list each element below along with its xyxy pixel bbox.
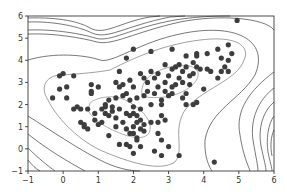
data-point	[64, 95, 69, 100]
data-point	[226, 42, 231, 47]
density-contours	[28, 16, 274, 171]
data-point	[103, 102, 108, 107]
data-point	[106, 98, 111, 103]
data-point	[219, 56, 224, 61]
data-point	[131, 104, 136, 109]
data-point	[163, 62, 168, 67]
data-point	[57, 87, 62, 92]
plot-frame	[28, 16, 274, 171]
data-point	[113, 80, 118, 85]
data-point	[141, 75, 146, 80]
y-tick-label: 3	[18, 78, 23, 87]
data-point	[89, 91, 94, 96]
scatter-contour-chart: −10123456 −10123456	[0, 0, 287, 192]
data-point	[184, 102, 189, 107]
data-point	[212, 160, 217, 165]
data-point	[113, 124, 118, 129]
data-point	[219, 69, 224, 74]
data-point	[113, 95, 118, 100]
data-point	[138, 144, 143, 149]
data-point	[152, 91, 157, 96]
data-point	[163, 118, 168, 123]
data-point	[96, 84, 101, 89]
data-point	[124, 91, 129, 96]
data-point	[138, 118, 143, 123]
data-point	[106, 133, 111, 138]
data-point	[152, 149, 157, 154]
y-tick-label: −1	[11, 167, 23, 176]
x-tick-label: −1	[22, 176, 34, 185]
data-point	[124, 126, 129, 131]
data-point	[85, 106, 90, 111]
data-point	[148, 102, 153, 107]
data-point	[145, 80, 150, 85]
y-tick-label: 4	[18, 56, 23, 65]
data-point	[194, 53, 199, 58]
data-point	[187, 82, 192, 87]
data-point	[85, 126, 90, 131]
x-tick-label: 2	[131, 176, 136, 185]
data-point	[177, 75, 182, 80]
data-point	[226, 69, 231, 74]
data-point	[92, 111, 97, 116]
x-tick-label: 0	[61, 176, 66, 185]
data-point	[89, 82, 94, 87]
data-point	[134, 137, 139, 142]
data-point	[138, 106, 143, 111]
data-point	[152, 75, 157, 80]
data-point	[226, 58, 231, 63]
data-point	[148, 120, 153, 125]
y-axis: −10123456	[11, 12, 28, 176]
x-axis: −10123456	[22, 171, 276, 185]
data-point	[117, 142, 122, 147]
data-point	[191, 60, 196, 65]
y-tick-label: 5	[18, 34, 23, 43]
y-tick-label: 6	[18, 12, 23, 21]
data-point	[198, 67, 203, 72]
y-tick-label: 2	[18, 101, 23, 110]
data-point	[131, 84, 136, 89]
data-point	[78, 106, 83, 111]
data-point	[180, 95, 185, 100]
data-point	[131, 124, 136, 129]
data-point	[159, 113, 164, 118]
data-point	[194, 100, 199, 105]
data-point	[124, 56, 129, 61]
data-point	[155, 131, 160, 136]
data-point	[166, 73, 171, 78]
data-point	[177, 153, 182, 158]
data-point	[155, 71, 160, 76]
y-tick-label: 0	[18, 145, 23, 154]
data-point	[141, 122, 146, 127]
data-point	[71, 73, 76, 78]
data-point	[110, 109, 115, 114]
data-point	[163, 89, 168, 94]
data-point	[184, 91, 189, 96]
data-point	[215, 75, 220, 80]
data-point	[127, 131, 132, 136]
data-point	[205, 51, 210, 56]
x-tick-label: 5	[236, 176, 241, 185]
data-point	[159, 153, 164, 158]
data-point	[229, 51, 234, 56]
data-point	[155, 84, 160, 89]
data-point	[120, 82, 125, 87]
data-point	[131, 151, 136, 156]
data-point	[180, 69, 185, 74]
data-point	[191, 71, 196, 76]
data-point	[184, 53, 189, 58]
data-point	[134, 95, 139, 100]
data-point	[177, 62, 182, 67]
data-point	[235, 18, 240, 23]
data-point	[113, 115, 118, 120]
data-point	[127, 78, 132, 83]
data-point	[173, 82, 178, 87]
data-point	[201, 87, 206, 92]
x-tick-label: 3	[166, 176, 171, 185]
data-point	[120, 120, 125, 125]
data-point	[141, 93, 146, 98]
data-point	[127, 144, 132, 149]
data-point	[222, 64, 227, 69]
data-point	[166, 144, 171, 149]
data-point	[184, 64, 189, 69]
